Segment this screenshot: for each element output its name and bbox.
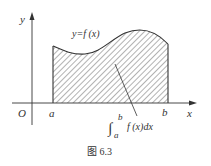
y-axis-label: y: [19, 13, 25, 25]
y-axis-arrow-icon: [30, 12, 35, 20]
integral-lower-limit: a: [114, 130, 119, 140]
lower-bound-label: a: [49, 107, 55, 119]
figure-caption: 图 6.3: [87, 146, 112, 157]
origin-label: O: [18, 107, 26, 119]
curve-label: y=f (x): [71, 28, 100, 40]
x-axis-label: x: [186, 107, 192, 119]
shaded-area: [53, 30, 168, 103]
x-axis-arrow-icon: [189, 101, 197, 106]
integrand-label: f (x)dx: [127, 121, 153, 133]
integral-symbol: ∫: [107, 120, 114, 137]
integral-upper-limit: b: [118, 112, 123, 122]
upper-bound-label: b: [162, 106, 168, 118]
integral-diagram: y x O a b y=f (x) ∫ b a f (x)dx 图 6.3: [0, 0, 211, 166]
